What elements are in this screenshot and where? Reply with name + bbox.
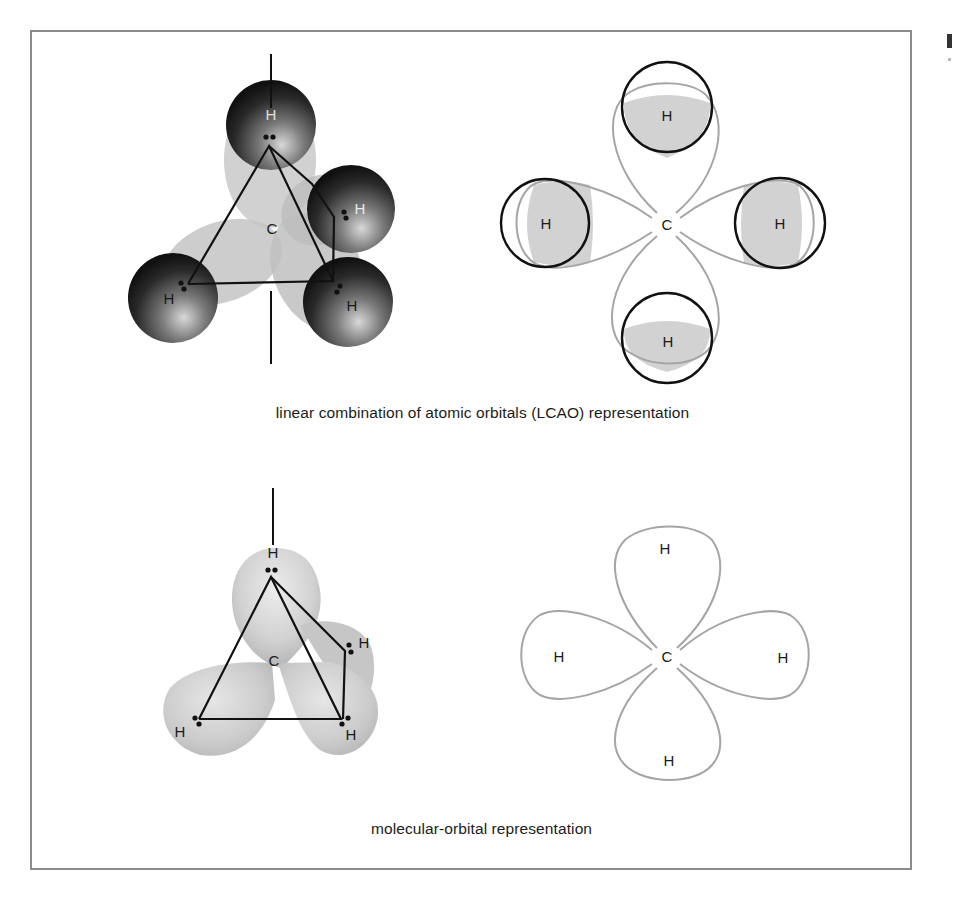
label-h-bottom-right: H	[346, 726, 357, 743]
label-h-bottom-left: H	[175, 723, 186, 740]
h-sphere-back-right	[307, 165, 395, 253]
label-h-back-right: H	[355, 200, 366, 217]
label-h-bottom-right: H	[347, 297, 358, 314]
lobe-left	[521, 611, 652, 698]
label-h-left: H	[541, 215, 552, 232]
caption-molecular-orbital: molecular-orbital representation	[0, 820, 957, 838]
diagram-canvas: H H H H C H H H H C	[0, 0, 957, 899]
label-c-center: C	[662, 216, 673, 233]
lcao-perspective-view: H H H H C	[128, 54, 395, 364]
mo-perspective-view: H H H H C	[163, 488, 378, 756]
label-h-top: H	[660, 540, 671, 557]
label-h-bottom: H	[663, 333, 674, 350]
overlap-right	[741, 182, 802, 267]
label-c-center: C	[269, 652, 280, 669]
label-h-back-right: H	[359, 634, 370, 651]
label-h-left: H	[554, 648, 565, 665]
mo-planar-view: H H H H C	[521, 527, 809, 781]
overlap-top	[624, 95, 710, 158]
label-h-bottom-left: H	[164, 290, 175, 307]
lcao-planar-view: H H H H C	[501, 62, 825, 383]
label-h-top: H	[268, 544, 279, 561]
overlap-left	[527, 182, 593, 267]
caption-lcao: linear combination of atomic orbitals (L…	[0, 404, 957, 422]
label-h-top: H	[266, 106, 277, 123]
label-h-right: H	[775, 215, 786, 232]
label-h-top: H	[662, 107, 673, 124]
label-c-center: C	[267, 220, 278, 237]
label-h-right: H	[778, 649, 789, 666]
mo-lobe-left	[163, 662, 275, 756]
label-h-bottom: H	[664, 752, 675, 769]
label-c-center: C	[662, 648, 673, 665]
